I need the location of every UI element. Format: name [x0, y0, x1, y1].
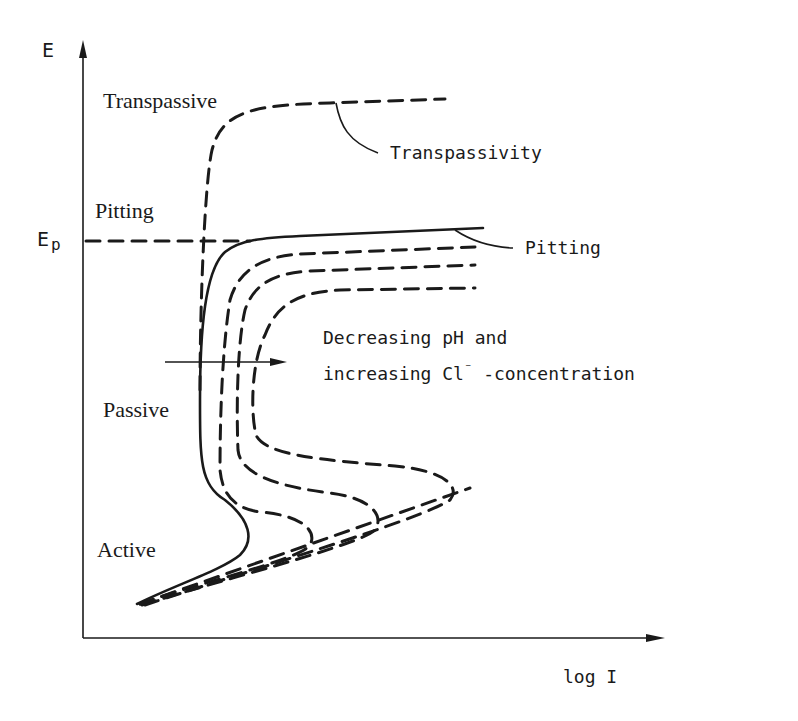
svg-text:p: p [51, 235, 61, 254]
ep-label: E p [37, 227, 61, 254]
svg-text:E: E [37, 227, 49, 251]
transpassivity-leader [336, 103, 378, 153]
region-passive: Passive [103, 397, 169, 422]
x-axis-arrow-icon [646, 634, 665, 642]
shifted-curve-1 [140, 247, 475, 604]
direction-arrow [165, 358, 287, 366]
y-axis-arrow-icon [79, 40, 87, 58]
region-active: Active [97, 537, 156, 562]
region-transpassive: Transpassive [103, 88, 217, 113]
x-axis-label: log I [563, 666, 617, 687]
annot-decreasing-ph: Decreasing pH and [323, 327, 507, 348]
arrow-right-icon [270, 358, 287, 366]
annot-pitting: Pitting [525, 237, 601, 258]
annot-transpassivity: Transpassivity [390, 142, 542, 163]
region-pitting: Pitting [95, 198, 154, 223]
annot-increasing-cl: increasing Cl⁻ -concentration [323, 360, 635, 384]
polarization-diagram: E log I E p Transpassive Pitting Passive… [0, 0, 798, 721]
y-axis-label: E [42, 38, 54, 62]
pitting-leader [455, 230, 513, 248]
active-tangent-line [140, 488, 470, 604]
base-curve-solid [137, 228, 483, 604]
